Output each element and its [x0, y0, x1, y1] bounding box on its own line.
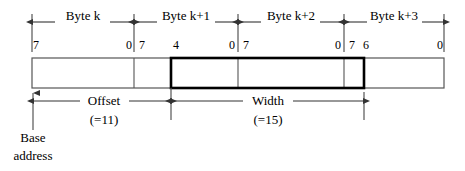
byte-label-k3: Byte k+3 [370, 9, 418, 22]
byte-label-k1: Byte k+1 [162, 9, 210, 22]
bit-label-field-end: 6 [363, 39, 369, 51]
width-value-label: (=15) [254, 113, 283, 126]
byte-bar [32, 58, 444, 88]
bit-label-k2-lsb: 0 [335, 39, 341, 51]
diagram-canvas [0, 0, 465, 171]
bit-label-field-start: 4 [173, 39, 179, 51]
byte-label-k2: Byte k+2 [267, 9, 315, 22]
bit-label-k2-msb: 7 [243, 39, 249, 51]
base-address-label-line2: address [14, 149, 53, 162]
bit-label-k-msb: 7 [33, 39, 39, 51]
bit-label-k1-lsb: 0 [229, 39, 235, 51]
bit-label-k3-msb: 7 [349, 39, 355, 51]
base-address-label-line1: Base [20, 131, 45, 144]
bit-label-k3-lsb: 0 [437, 39, 443, 51]
width-label: Width [252, 94, 284, 107]
bit-label-k1-msb: 7 [139, 39, 145, 51]
offset-label: Offset [88, 94, 120, 107]
bitfield-diagram: Byte k Byte k+1 Byte k+2 Byte k+3 7 0 7 … [0, 0, 465, 171]
byte-label-k: Byte k [66, 9, 100, 22]
bit-label-k-lsb: 0 [126, 39, 132, 51]
offset-value-label: (=11) [90, 113, 119, 126]
